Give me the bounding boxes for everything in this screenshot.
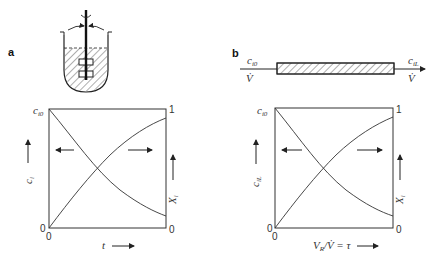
tubular-reactor-icon: ci0 V̇ ciL V̇ (240, 54, 425, 84)
x-axis-label: t (102, 239, 106, 251)
y-left-axis-label: ci (22, 177, 36, 184)
y-right-axis-label: Xi (393, 195, 407, 205)
x-origin-label: 0 (272, 231, 278, 242)
inlet-concentration-label: ci0 (247, 54, 258, 68)
concentration-curve (275, 108, 393, 216)
conversion-curve (49, 118, 166, 228)
x-axis-label: VR/V̇ = τ (313, 239, 352, 253)
y-left-axis-label: ciL (249, 176, 263, 187)
outlet-concentration-label: ciL (408, 54, 419, 68)
conversion-curve (275, 117, 393, 228)
y-right-top-label: 1 (396, 104, 402, 115)
panel-b-label: b (232, 47, 239, 59)
figure: a (0, 0, 432, 266)
plot-a: ci0 ci 0 0 1 Xi 0 t (22, 104, 180, 251)
panel-a-label: a (8, 46, 15, 58)
plot-b: ci0 ciL 0 0 1 Xi 0 VR/V̇ = τ (249, 104, 407, 253)
outlet-flow-label: V̇ (408, 72, 416, 84)
inlet-flow-label: V̇ (246, 72, 254, 84)
batch-reactor-icon (60, 10, 112, 92)
y-left-top-label: ci0 (33, 104, 44, 118)
y-left-top-label: ci0 (257, 104, 268, 118)
y-right-axis-label: Xi (166, 195, 180, 205)
y-right-bottom-label: 0 (169, 224, 175, 235)
panel-a: a (8, 10, 180, 251)
panel-b: b ci0 V̇ ciL V̇ ci0 ciL 0 0 1 Xi 0 (232, 47, 425, 253)
y-right-bottom-label: 0 (396, 224, 402, 235)
x-origin-label: 0 (46, 231, 52, 242)
concentration-curve (49, 109, 166, 216)
y-right-top-label: 1 (169, 104, 175, 115)
